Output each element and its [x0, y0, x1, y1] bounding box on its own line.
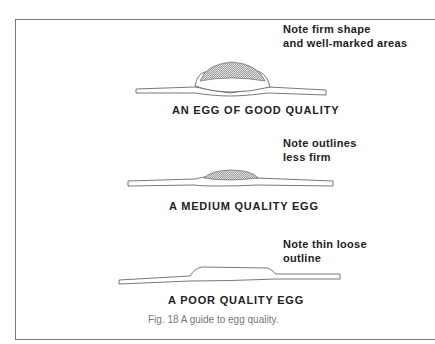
note-line: Note firm shape — [283, 22, 407, 36]
good-egg-label: AN EGG OF GOOD QUALITY — [172, 104, 339, 116]
medium-egg-illustration — [128, 170, 333, 186]
good-egg-note: Note firm shape and well-marked areas — [283, 22, 407, 50]
good-egg-illustration — [136, 62, 326, 96]
poor-egg-label: A POOR QUALITY EGG — [168, 294, 304, 306]
note-line: and well-marked areas — [283, 36, 407, 50]
figure-caption: Fig. 18 A guide to egg quality. — [148, 314, 278, 325]
poor-egg-illustration — [119, 267, 340, 284]
note-line: less firm — [283, 150, 357, 164]
note-line: Note thin loose — [283, 237, 367, 251]
medium-egg-note: Note outlines less firm — [283, 136, 357, 164]
poor-egg-note: Note thin loose outline — [283, 237, 367, 265]
note-line: outline — [283, 251, 367, 265]
medium-egg-label: A MEDIUM QUALITY EGG — [169, 200, 319, 212]
note-line: Note outlines — [283, 136, 357, 150]
